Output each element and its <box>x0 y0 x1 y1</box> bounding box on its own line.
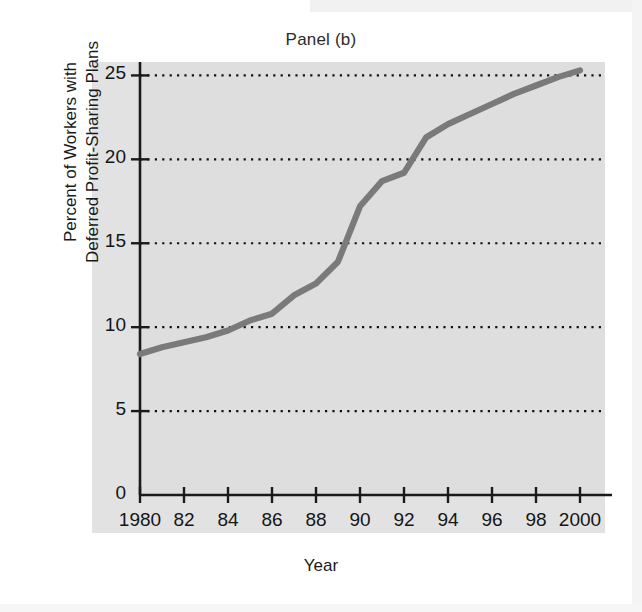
x-axis-title: Year <box>0 556 642 576</box>
gridlines-group <box>140 75 605 411</box>
figure-panel-b: Panel (b) 0510152025 1980828486889092949… <box>0 0 642 612</box>
x-tick-label: 2000 <box>549 509 611 531</box>
axes-group <box>140 62 612 495</box>
y-axis-title-line-2: Deferred Profit-Sharing Plans <box>82 41 104 263</box>
y-tick-label: 0 <box>84 482 126 504</box>
y-tick-label: 5 <box>84 398 126 420</box>
series-line-profit-sharing <box>140 70 580 354</box>
y-axis-title: Percent of Workers with Deferred Profit-… <box>58 0 106 352</box>
data-series-group <box>140 70 580 354</box>
y-axis-title-line-1: Percent of Workers with <box>60 62 82 242</box>
